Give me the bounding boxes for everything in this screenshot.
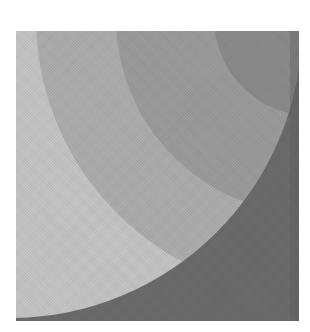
dark-region	[0, 0, 310, 332]
abstract-artwork	[0, 0, 310, 332]
artwork-square	[0, 0, 310, 332]
right-edge-shadow	[290, 31, 299, 321]
